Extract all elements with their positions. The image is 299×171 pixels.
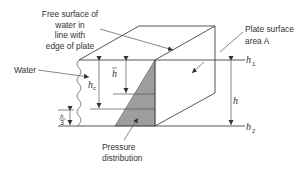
svg-text:2: 2 <box>252 128 256 134</box>
h-c-label: h c <box>88 79 96 91</box>
svg-text:c: c <box>93 85 96 91</box>
h2-label: h 2 <box>246 121 256 134</box>
free-surface-label: Free surface of water in line with edge … <box>42 9 99 51</box>
svg-text:line with: line with <box>55 30 86 40</box>
plate-normal-arrow <box>192 62 204 73</box>
svg-text:Pressure: Pressure <box>102 142 136 152</box>
h-over-3-label: h 3 <box>59 112 66 126</box>
free-surface-leader <box>100 29 173 50</box>
svg-text:h: h <box>112 68 117 79</box>
water-wavy-edge <box>77 60 81 126</box>
plate-surface-label: Plate surface area A <box>245 24 294 46</box>
svg-text:1: 1 <box>252 61 256 67</box>
plate-surface-leader <box>220 32 243 52</box>
h1-label: h 1 <box>246 54 256 67</box>
svg-text:water in: water in <box>54 20 85 30</box>
svg-text:edge of plate: edge of plate <box>46 41 95 51</box>
svg-text:h: h <box>246 54 251 65</box>
svg-text:Plate surface: Plate surface <box>245 24 294 34</box>
pressure-distribution-label: Pressure distribution <box>102 142 143 163</box>
pressure-distribution-triangle <box>115 60 155 126</box>
water-label: Water <box>14 65 36 75</box>
h-label: h <box>233 95 238 106</box>
svg-text:area A: area A <box>245 36 270 46</box>
hydrostatic-plate-diagram: Free surface of water in line with edge … <box>0 0 299 171</box>
svg-text:3: 3 <box>60 119 64 126</box>
svg-text:h: h <box>246 121 251 132</box>
water-leader <box>38 70 89 77</box>
svg-text:Free surface of: Free surface of <box>42 9 99 19</box>
svg-text:distribution: distribution <box>102 153 143 163</box>
h-bar-label: h <box>112 68 117 79</box>
